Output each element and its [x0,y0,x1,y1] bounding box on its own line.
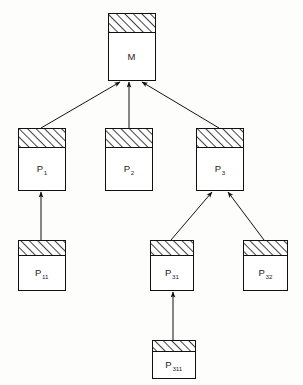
node-p32[interactable]: P32 [244,241,288,291]
node-label-subscript: 2 [131,169,135,176]
node-hatched-header [244,241,288,256]
edge-p3-to-m [142,82,219,128]
node-label: P [165,267,171,278]
node-p31[interactable]: P31 [151,241,194,291]
node-hatched-header [109,14,156,33]
node-p11[interactable]: P11 [19,241,66,291]
nodes-layer: MP1P2P3P11P31P32P311 [19,14,288,379]
node-label: P [37,163,43,174]
node-label: P [215,163,221,174]
node-label-subscript: 311 [172,365,182,372]
node-label: M [128,51,136,62]
node-label: P [165,359,171,370]
edges-layer [41,82,264,340]
edge-line [228,192,264,240]
diagram-canvas: MP1P2P3P11P31P32P311 [0,0,303,385]
node-label: P [124,163,130,174]
process-tree-diagram: MP1P2P3P11P31P32P311 [0,0,303,385]
edge-p1-to-m [41,82,120,128]
node-hatched-header [19,241,66,256]
node-label: P [35,267,41,278]
node-p311[interactable]: P311 [153,341,196,379]
edge-line [171,192,212,240]
node-hatched-header [153,341,196,352]
node-hatched-header [106,129,153,148]
node-label-subscript: 32 [266,273,273,280]
node-label-subscript: 3 [222,169,226,176]
edge-line [41,82,120,128]
node-hatched-header [197,129,244,148]
node-hatched-header [151,241,194,256]
node-label: P [258,267,264,278]
node-label-subscript: 1 [44,169,48,176]
edge-p32-to-p3 [228,192,264,240]
node-label-subscript: 31 [172,273,179,280]
node-p3[interactable]: P3 [197,129,244,191]
edge-p31-to-p3 [171,192,212,240]
node-m[interactable]: M [109,14,156,81]
node-p1[interactable]: P1 [19,129,66,191]
edge-line [142,82,219,128]
node-hatched-header [19,129,66,148]
node-p2[interactable]: P2 [106,129,153,191]
node-label-subscript: 11 [42,273,49,280]
